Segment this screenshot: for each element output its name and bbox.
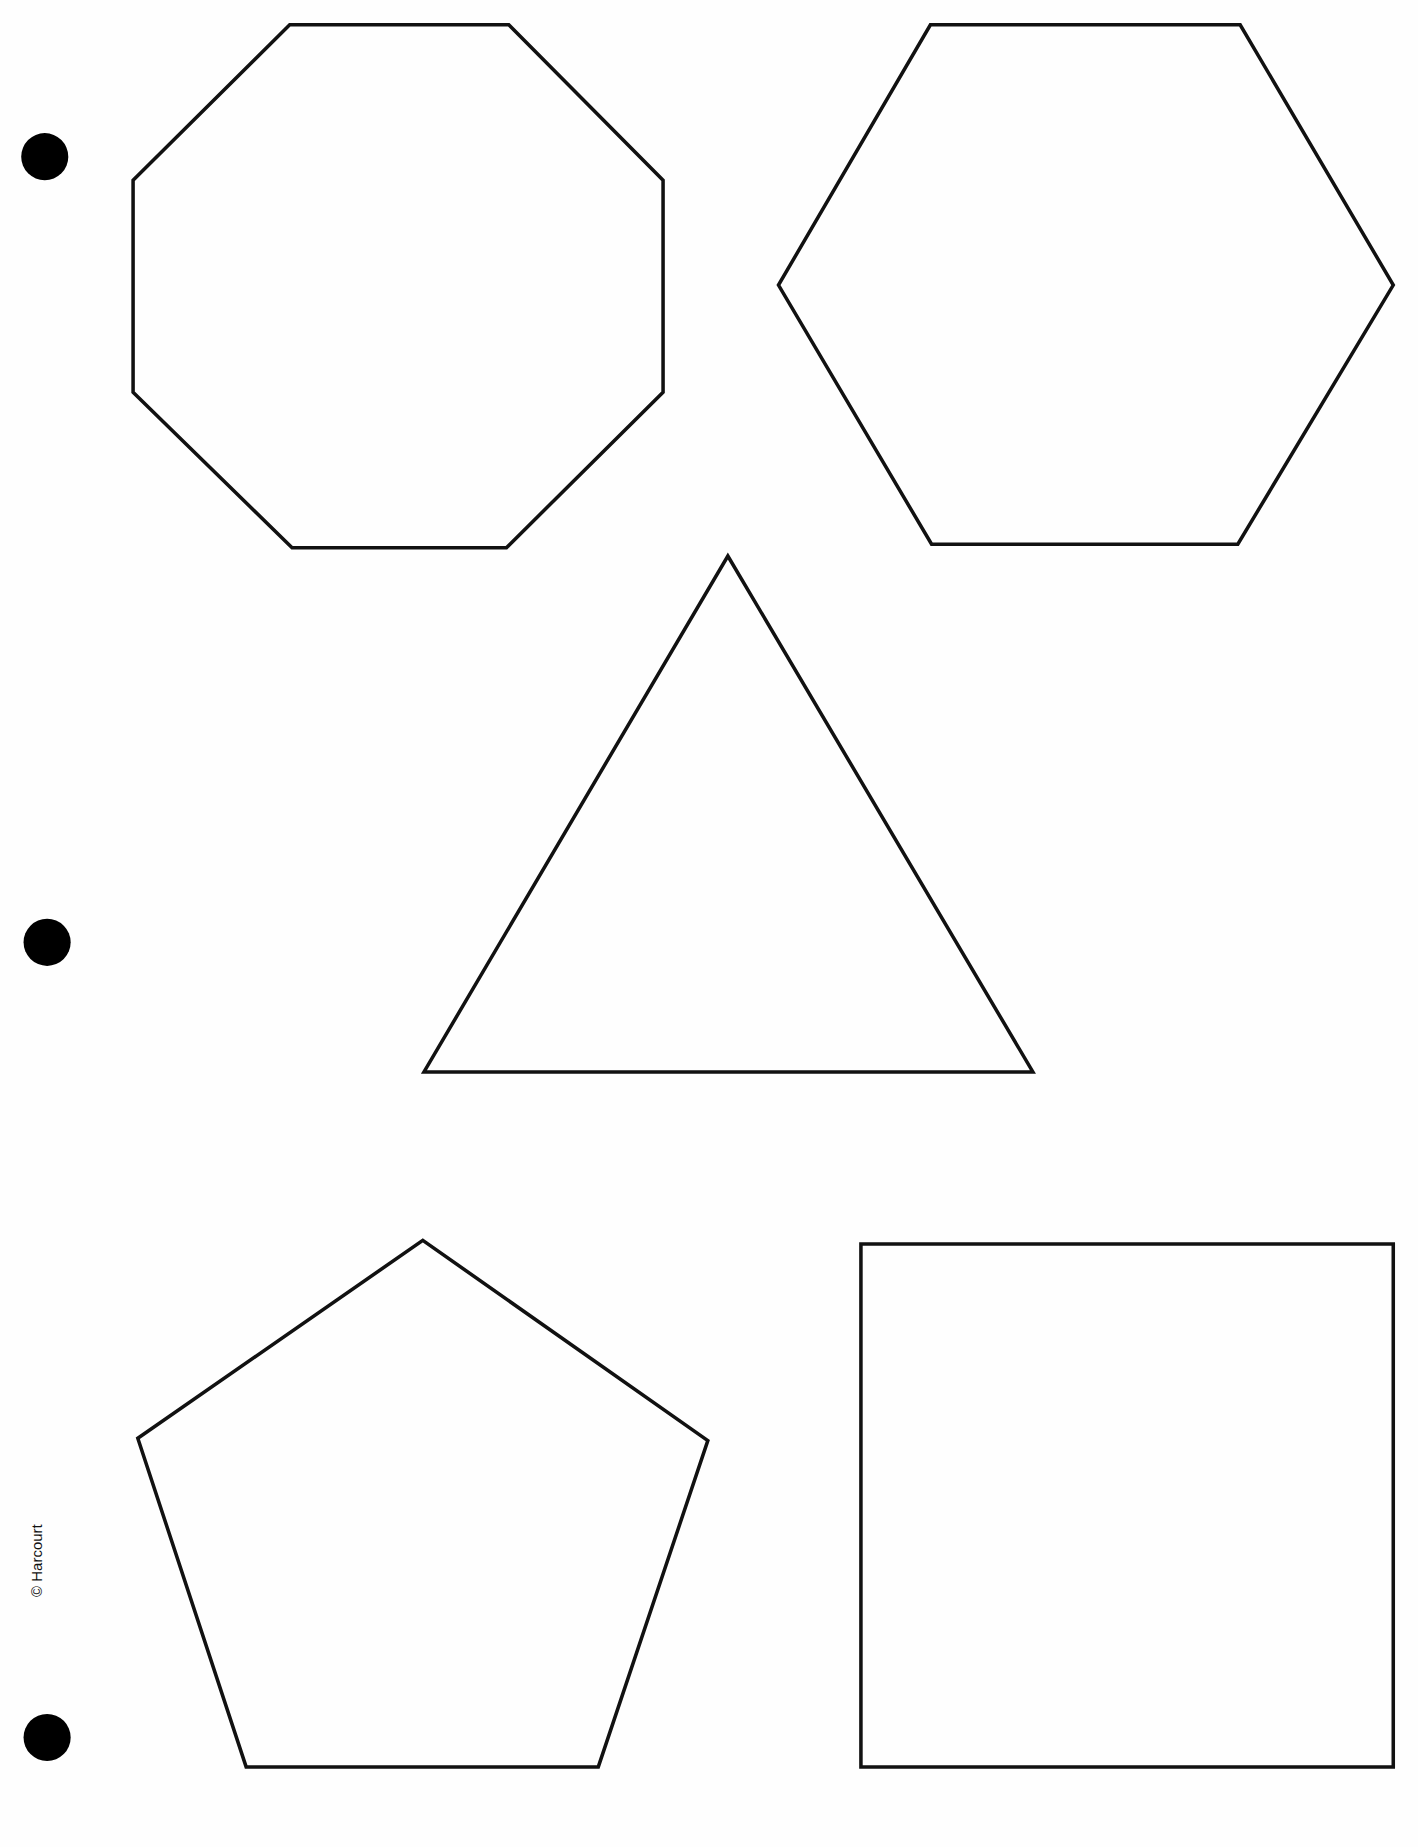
binder-hole-middle-icon: [24, 919, 71, 966]
binder-hole-bottom-icon: [24, 1714, 71, 1761]
copyright-notice: © Harcourt: [28, 1524, 45, 1597]
pentagon-shape: [138, 1240, 708, 1767]
triangle-shape: [424, 556, 1033, 1072]
shapes-canvas: [0, 0, 1418, 1847]
worksheet-page: © Harcourt: [0, 0, 1418, 1847]
binder-hole-top-icon: [21, 133, 68, 180]
octagon-shape: [133, 25, 663, 548]
square-shape: [861, 1244, 1393, 1767]
hexagon-shape: [778, 25, 1393, 544]
